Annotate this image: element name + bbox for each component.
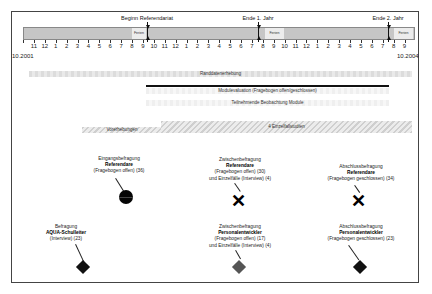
- survey-detail: und Einzelfälle (Interview) (4): [209, 176, 271, 182]
- survey-abschluss-personalentwickler: Abschlussbefragung Personalentwickler (F…: [328, 224, 395, 243]
- marker-ende-1-jahr: Ende 1. Jahr: [242, 15, 273, 21]
- tick-mark: [23, 40, 24, 43]
- arrow-down-icon: [387, 25, 391, 29]
- ferien-period-1: Ferien: [132, 28, 146, 39]
- x-mark-icon: ✕: [351, 192, 366, 210]
- marker-beginn-referendariat: Beginn Referendariat: [121, 15, 173, 21]
- survey-detail: (Fragebogen geschlossen) (23): [328, 236, 395, 242]
- ferien-period-2: Ferien: [265, 28, 284, 39]
- survey-aqua-schulleiter: Befragung AQUA-Schulleiter (Interview) (…: [46, 224, 86, 243]
- survey-abschluss-referendare: Abschlussbefragung Referendare (Fragebog…: [328, 164, 395, 183]
- survey-detail: und Einzelfälle (Interview) (4): [209, 243, 271, 249]
- vorerhebungen-label: Vorerhebungen: [107, 127, 138, 132]
- timeline-start-date: 10.2001: [12, 53, 34, 59]
- activity-randdatenerhebung: Randdatenerhebung: [29, 71, 412, 77]
- activity-modulevaluation: Modulevaluation (Fragebogen offen/geschl…: [146, 88, 389, 94]
- survey-detail: (Fragebogen offen) (17): [209, 236, 271, 242]
- timeline-bar: Ferien Ferien Ferien: [23, 27, 415, 40]
- arrow-up-icon: [387, 36, 391, 40]
- ferien-period-3: Ferien: [394, 28, 413, 39]
- survey-zwischen-personalentwickler: Zwischenbefragung Personalentwickler (Fr…: [209, 224, 271, 249]
- survey-detail: (Interview) (23): [46, 236, 86, 242]
- arrow-up-icon: [146, 36, 150, 40]
- survey-detail: (Fragebogen offen) (30): [209, 169, 271, 175]
- survey-detail: (Fragebogen offen) (36): [94, 168, 145, 174]
- survey-zwischen-referendare: Zwischenbefragung Referendare (Frageboge…: [209, 157, 271, 182]
- arrow-up-icon: [257, 36, 261, 40]
- activity-einzelfallstudien: 4 Einzelfallstudien: [161, 121, 412, 133]
- survey-eingang-referendare: Eingangsbefragung Referendare (Frageboge…: [94, 156, 145, 175]
- arrow-down-icon: [146, 25, 150, 29]
- timeline-end-date: 10.2004: [397, 53, 419, 59]
- marker-ende-2-jahr: Ende 2. Jahr: [372, 15, 403, 21]
- tick-label: 9: [399, 43, 411, 49]
- survey-detail: (Fragebogen geschlossen) (34): [328, 176, 395, 182]
- activity-teilnehmende-beobachtung: Teilnehmende Beobachtung Module: [146, 100, 389, 106]
- activity-vorerhebungen: Vorerhebungen: [82, 127, 162, 133]
- x-mark-icon: ✕: [231, 192, 246, 210]
- filled-circle-icon: [119, 190, 133, 204]
- arrow-down-icon: [257, 25, 261, 29]
- modulevaluation-line: [146, 85, 389, 87]
